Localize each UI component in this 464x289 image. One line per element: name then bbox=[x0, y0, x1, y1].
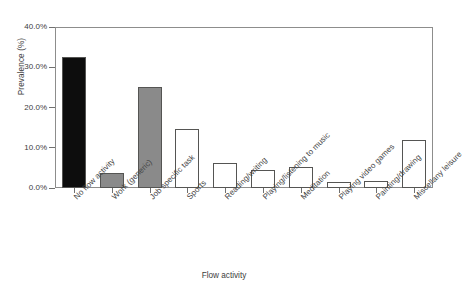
x-axis-tick-label: Meditation bbox=[299, 169, 332, 202]
x-axis-title: Flow activity bbox=[0, 271, 448, 280]
x-axis-tick-label: Sports bbox=[185, 178, 208, 201]
x-axis-tick-label: Playing/listening to music bbox=[261, 131, 332, 202]
